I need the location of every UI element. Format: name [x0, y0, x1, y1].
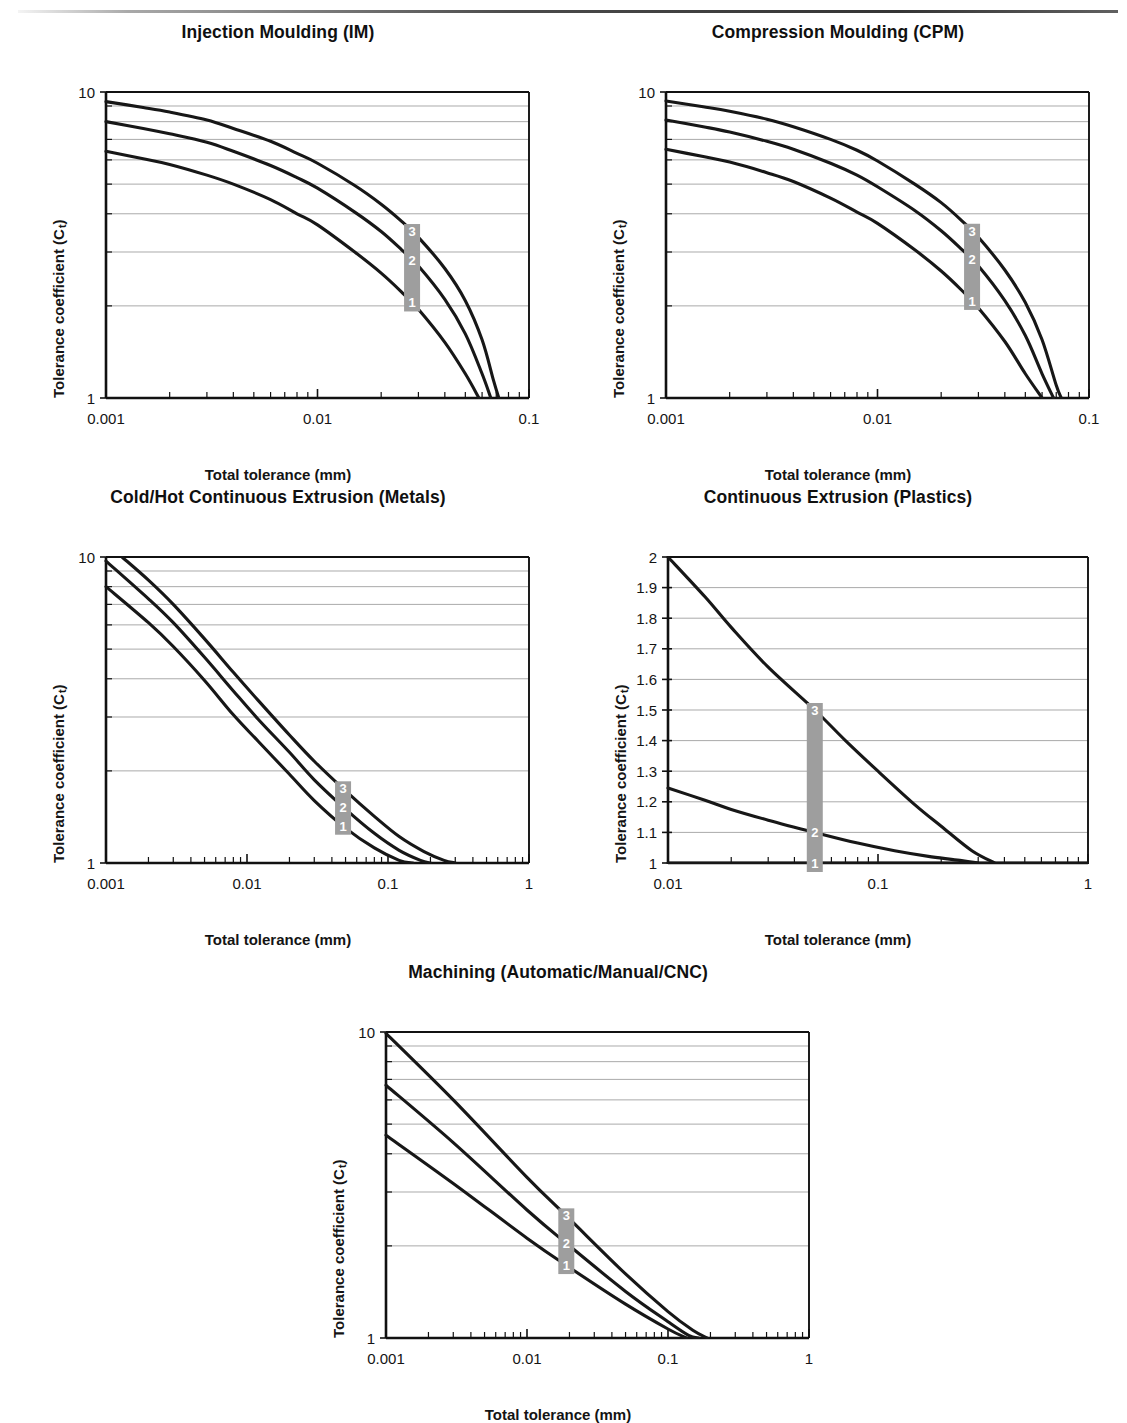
x-tick-label: 0.001	[647, 410, 685, 427]
plot-wrapper-machining-automatic-manual-cnc: 0.0010.010.11110321	[336, 1016, 839, 1384]
curve-label-badges-compression-moulding: 321	[964, 224, 980, 310]
x-tick-label: 0.01	[512, 1350, 541, 1367]
x-tick-label: 0.01	[232, 875, 261, 892]
curve-series-1	[106, 587, 413, 863]
x-ticks-compression-moulding: 0.0010.010.1	[647, 389, 1099, 427]
curves-compression-moulding	[666, 101, 1061, 398]
curve-label-1: 1	[563, 1258, 570, 1273]
x-ticks-cold-hot-continuous-extrusion-metals: 0.0010.010.11	[87, 854, 533, 892]
gridlines-injection-moulding	[106, 106, 529, 306]
y-tick-label: 10	[78, 84, 95, 101]
chart-title-cold-hot-continuous-extrusion-metals: Cold/Hot Continuous Extrusion (Metals)	[18, 487, 538, 508]
curve-label-3: 3	[811, 703, 818, 718]
y-ticks-continuous-extrusion-plastics: 11.11.21.31.41.51.61.71.81.92	[636, 549, 672, 872]
curve-label-3: 3	[563, 1208, 570, 1223]
curve-series-2	[386, 1085, 699, 1338]
curve-series-2	[668, 788, 978, 863]
x-axis-title-injection-moulding: Total tolerance (mm)	[18, 466, 538, 483]
x-ticks-continuous-extrusion-plastics: 0.010.11	[653, 854, 1092, 892]
gridlines-continuous-extrusion-plastics	[668, 588, 1088, 833]
x-tick-label: 0.1	[378, 875, 399, 892]
chart-title-continuous-extrusion-plastics: Continuous Extrusion (Plastics)	[578, 487, 1098, 508]
chart-panel-machining-automatic-manual-cnc: Machining (Automatic/Manual/CNC)Toleranc…	[298, 962, 818, 1402]
plot-area-machining-automatic-manual-cnc: 0.0010.010.11110321	[336, 1016, 839, 1384]
curve-series-1	[386, 1135, 686, 1338]
plot-wrapper-cold-hot-continuous-extrusion-metals: 0.0010.010.11110321	[56, 541, 559, 909]
plot-frame-machining-automatic-manual-cnc	[386, 1032, 809, 1338]
plot-wrapper-injection-moulding: 0.0010.010.1110321	[56, 76, 559, 444]
curve-label-badges-machining-automatic-manual-cnc: 321	[558, 1208, 574, 1274]
x-tick-label: 1	[1084, 875, 1092, 892]
y-tick-label: 1	[647, 390, 655, 407]
x-tick-label: 0.01	[863, 410, 892, 427]
x-ticks-machining-automatic-manual-cnc: 0.0010.010.11	[367, 1329, 813, 1367]
gridlines-machining-automatic-manual-cnc	[386, 1046, 809, 1246]
chart-panel-compression-moulding: Compression Moulding (CPM)Tolerance coef…	[578, 22, 1098, 462]
x-tick-label: 1	[805, 1350, 813, 1367]
chart-panel-injection-moulding: Injection Moulding (IM)Tolerance coeffic…	[18, 22, 538, 462]
y-tick-label: 1.3	[636, 763, 657, 780]
plot-frame-compression-moulding	[666, 92, 1089, 398]
plot-frame-injection-moulding	[106, 92, 529, 398]
chart-panel-cold-hot-continuous-extrusion-metals: Cold/Hot Continuous Extrusion (Metals)To…	[18, 487, 538, 927]
x-tick-label: 1	[525, 875, 533, 892]
x-axis-title-cold-hot-continuous-extrusion-metals: Total tolerance (mm)	[18, 931, 538, 948]
x-ticks-injection-moulding: 0.0010.010.1	[87, 389, 539, 427]
x-tick-label: 0.1	[868, 875, 889, 892]
curve-label-3: 3	[408, 224, 415, 239]
curve-label-2: 2	[339, 800, 346, 815]
y-tick-label: 1	[87, 855, 95, 872]
curve-series-3	[122, 557, 455, 863]
y-tick-label: 1.9	[636, 579, 657, 596]
curve-series-3	[106, 102, 499, 398]
plot-area-cold-hot-continuous-extrusion-metals: 0.0010.010.11110321	[56, 541, 559, 909]
curve-label-badges-continuous-extrusion-plastics: 321	[807, 703, 823, 872]
plot-wrapper-compression-moulding: 0.0010.010.1110321	[616, 76, 1119, 444]
curve-series-3	[666, 101, 1061, 398]
x-tick-label: 0.001	[87, 875, 125, 892]
curve-label-badges-cold-hot-continuous-extrusion-metals: 321	[335, 781, 351, 834]
x-tick-label: 0.001	[87, 410, 125, 427]
curve-label-1: 1	[408, 295, 415, 310]
x-axis-title-compression-moulding: Total tolerance (mm)	[578, 466, 1098, 483]
x-tick-label: 0.1	[658, 1350, 679, 1367]
curve-label-2: 2	[811, 825, 818, 840]
plot-area-injection-moulding: 0.0010.010.1110321	[56, 76, 559, 444]
chart-panel-continuous-extrusion-plastics: Continuous Extrusion (Plastics)Tolerance…	[578, 487, 1098, 927]
plot-area-continuous-extrusion-plastics: 0.010.1111.11.21.31.41.51.61.71.81.92321	[618, 541, 1118, 909]
y-tick-label: 1	[649, 855, 657, 872]
plot-wrapper-continuous-extrusion-plastics: 0.010.1111.11.21.31.41.51.61.71.81.92321	[618, 541, 1118, 909]
y-tick-label: 1	[367, 1330, 375, 1347]
y-tick-label: 1.7	[636, 640, 657, 657]
chart-title-injection-moulding: Injection Moulding (IM)	[18, 22, 538, 43]
y-tick-label: 1.8	[636, 610, 657, 627]
plot-area-compression-moulding: 0.0010.010.1110321	[616, 76, 1119, 444]
x-tick-label: 0.1	[519, 410, 540, 427]
curves-cold-hot-continuous-extrusion-metals	[106, 557, 455, 863]
y-tick-label: 10	[358, 1024, 375, 1041]
x-tick-label: 0.001	[367, 1350, 405, 1367]
x-axis-title-continuous-extrusion-plastics: Total tolerance (mm)	[578, 931, 1098, 948]
y-tick-label: 1.4	[636, 732, 657, 749]
y-tick-label: 1.6	[636, 671, 657, 688]
gridlines-compression-moulding	[666, 106, 1089, 306]
x-tick-label: 0.1	[1079, 410, 1100, 427]
curves-injection-moulding	[106, 102, 499, 398]
x-tick-label: 0.01	[303, 410, 332, 427]
y-tick-label: 1	[87, 390, 95, 407]
curve-label-1: 1	[339, 819, 346, 834]
chart-title-machining-automatic-manual-cnc: Machining (Automatic/Manual/CNC)	[298, 962, 818, 983]
x-axis-title-machining-automatic-manual-cnc: Total tolerance (mm)	[298, 1406, 818, 1423]
curve-label-badges-injection-moulding: 321	[404, 224, 420, 311]
y-tick-label: 1.1	[636, 824, 657, 841]
curve-series-1	[106, 151, 479, 398]
y-tick-label: 1.2	[636, 793, 657, 810]
curve-label-1: 1	[968, 294, 975, 309]
curve-label-2: 2	[408, 253, 415, 268]
y-tick-label: 10	[78, 549, 95, 566]
curve-label-2: 2	[968, 252, 975, 267]
curve-label-3: 3	[339, 781, 346, 796]
curve-label-1: 1	[811, 856, 818, 871]
curve-label-2: 2	[563, 1236, 570, 1251]
chart-title-compression-moulding: Compression Moulding (CPM)	[578, 22, 1098, 43]
